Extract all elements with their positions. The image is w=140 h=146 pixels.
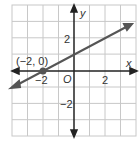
y-tick-label-neg2: −2 — [60, 98, 73, 110]
x-tick-label-2: 2 — [102, 74, 108, 86]
y-tick-label-2: 2 — [64, 33, 70, 45]
x-axis-label: x — [125, 57, 132, 69]
origin-label: O — [63, 73, 72, 85]
coordinate-plane: (−2, 0) x y O −2 2 2 −2 — [0, 0, 140, 146]
y-axis-label: y — [79, 7, 87, 19]
x-tick-label-neg2: −2 — [35, 74, 48, 86]
point-label: (−2, 0) — [16, 55, 48, 67]
